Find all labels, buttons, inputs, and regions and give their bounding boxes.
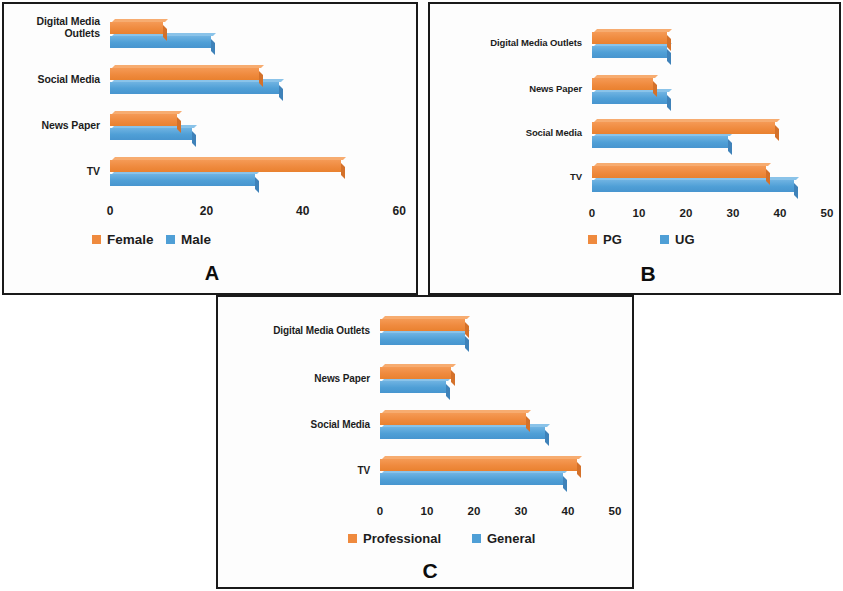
legend-swatch-icon [92,235,101,244]
bar-side-face [728,139,732,155]
chart-panel-c: Digital Media OutletsNews PaperSocial Me… [216,295,634,589]
bar-top-face [382,316,470,319]
legend-label: Professional [363,531,441,546]
category-label: TV [8,166,100,178]
x-axis-tick-label: 40 [562,505,575,517]
bar-pg [592,32,667,44]
legend-swatch-icon [472,534,481,543]
category-label: News Paper [434,84,582,95]
bar-face [592,166,766,178]
category-label: Digital Media Outlets [434,38,582,49]
category-label: News Paper [222,373,370,384]
x-axis-tick-label: 60 [393,204,406,218]
bar-face [110,174,255,186]
bar-side-face [446,384,450,400]
x-axis-tick-label: 0 [589,207,595,219]
x-axis-tick-label: 40 [774,207,787,219]
bar-face [380,333,465,345]
legend-swatch-icon [588,235,597,244]
bar-professional [380,319,465,331]
bar-top-face [112,157,346,160]
plot-area-b: Digital Media OutletsNews PaperSocial Me… [430,4,839,293]
x-axis-tick-label: 20 [680,207,693,219]
bar-pg [592,122,775,134]
category-label: TV [222,465,370,476]
bar-face [110,160,341,172]
bar-female [110,160,341,172]
legend-swatch-icon [348,534,357,543]
bar-side-face [775,125,779,141]
bar-face [592,136,728,148]
bar-professional [380,367,451,379]
bar-face [380,367,451,379]
bar-side-face [526,416,530,432]
bar-top-face [594,119,780,122]
legend-label: General [487,531,535,546]
bar-face [380,473,563,485]
bar-face [592,32,667,44]
bar-side-face [451,370,455,386]
x-axis-tick-label: 30 [727,207,740,219]
bar-female [110,22,163,34]
bar-side-face [545,430,549,446]
bar-face [380,459,577,471]
legend-swatch-icon [166,235,175,244]
bar-side-face [667,35,671,51]
bar-female [110,114,177,126]
legend-item[interactable]: General [472,531,535,546]
bar-side-face [577,462,581,478]
legend-item[interactable]: Female [92,232,154,247]
x-axis-tick-label: 50 [609,505,622,517]
legend-item[interactable]: Male [166,232,211,247]
bar-general [380,381,446,393]
x-axis-tick-label: 30 [515,505,528,517]
bar-ug [592,180,794,192]
bar-side-face [192,131,196,147]
legend-swatch-icon [660,235,669,244]
panel-letter: C [422,559,437,583]
x-axis-tick-label: 40 [296,204,309,218]
category-label: News Paper [8,120,100,132]
bar-face [110,36,211,48]
category-label: TV [434,172,582,183]
bar-side-face [766,169,770,185]
category-label: Digital Media Outlets [222,325,370,336]
bar-pg [592,166,766,178]
bar-face [380,319,465,331]
x-axis-tick-label: 0 [377,505,383,517]
bar-top-face [112,65,264,68]
bar-side-face [667,95,671,111]
bar-face [592,180,794,192]
plot-area-a: Digital Media OutletsSocial MediaNews Pa… [4,4,416,293]
category-label: Social Media [434,128,582,139]
bar-face [110,22,163,34]
bar-face [380,381,446,393]
bar-side-face [465,322,469,338]
bar-top-face [382,410,531,413]
legend-label: PG [603,232,622,247]
bar-side-face [211,39,215,55]
bar-face [380,427,545,439]
bar-top-face [594,29,672,32]
legend-label: Female [107,232,154,247]
bar-general [380,427,545,439]
bar-side-face [653,81,657,97]
bar-pg [592,78,653,90]
bar-face [110,114,177,126]
bar-top-face [382,364,456,367]
bar-side-face [279,85,283,101]
bar-professional [380,413,526,425]
bar-side-face [177,117,181,133]
bar-side-face [563,476,567,492]
bar-side-face [341,163,345,179]
category-label: Digital Media Outlets [8,16,100,40]
panel-letter: A [205,262,219,285]
legend-item[interactable]: Professional [348,531,441,546]
bar-face [380,413,526,425]
x-axis-tick-label: 10 [421,505,434,517]
legend-item[interactable]: UG [660,232,695,247]
bar-side-face [255,177,259,193]
bar-side-face [163,25,167,41]
x-axis-tick-label: 10 [633,207,646,219]
legend-item[interactable]: PG [588,232,622,247]
